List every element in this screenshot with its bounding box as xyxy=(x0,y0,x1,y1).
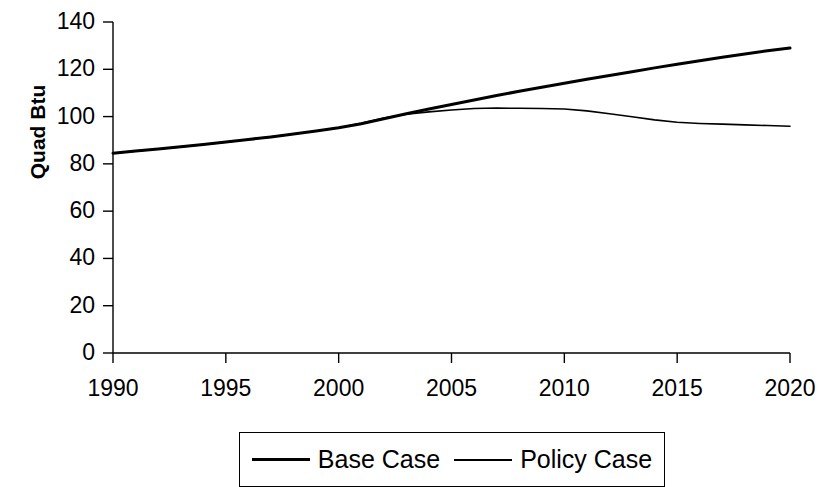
legend-label-policy-case: Policy Case xyxy=(520,447,652,472)
x-tick-label: 2005 xyxy=(402,377,502,400)
x-tick-label: 2020 xyxy=(740,377,820,400)
legend-entry-policy-case: Policy Case xyxy=(454,447,652,472)
x-axis-tick-marks xyxy=(113,353,790,363)
series-line-base-case xyxy=(113,48,790,153)
series-line-policy-case xyxy=(113,108,790,153)
y-tick-label: 140 xyxy=(25,10,95,33)
x-tick-label: 2015 xyxy=(627,377,727,400)
axis-lines xyxy=(113,22,790,353)
y-tick-label: 20 xyxy=(25,294,95,317)
x-tick-label: 2010 xyxy=(514,377,614,400)
y-tick-label: 120 xyxy=(25,57,95,80)
legend-entry-base-case: Base Case xyxy=(252,447,440,472)
y-tick-label: 80 xyxy=(25,152,95,175)
thick-line-swatch xyxy=(252,458,310,461)
y-tick-label: 0 xyxy=(25,341,95,364)
line-chart-figure: Quad Btu 020406080100120140 199019952000… xyxy=(0,0,820,487)
x-tick-label: 1990 xyxy=(63,377,163,400)
x-tick-label: 1995 xyxy=(176,377,276,400)
data-series-lines xyxy=(113,48,790,153)
thin-line-swatch xyxy=(454,459,512,461)
legend-label-base-case: Base Case xyxy=(318,447,440,472)
y-tick-label: 60 xyxy=(25,199,95,222)
x-tick-label: 2000 xyxy=(289,377,389,400)
y-tick-label: 40 xyxy=(25,246,95,269)
plot-area xyxy=(0,0,820,487)
chart-legend: Base Case Policy Case xyxy=(239,432,665,487)
y-tick-label: 100 xyxy=(25,105,95,128)
y-axis-tick-marks xyxy=(103,22,113,353)
